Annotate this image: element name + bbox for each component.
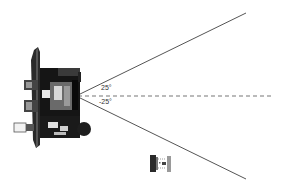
field-of-view-diagram bbox=[0, 0, 282, 187]
lower-boundary-line bbox=[76, 96, 246, 179]
upper-angle-label: 25° bbox=[101, 84, 112, 91]
lower-angle-label: -25° bbox=[99, 98, 112, 105]
robot-top-view bbox=[14, 47, 91, 148]
robot-icon-small bbox=[150, 155, 171, 172]
